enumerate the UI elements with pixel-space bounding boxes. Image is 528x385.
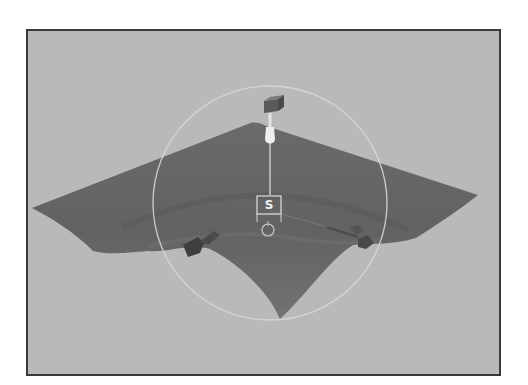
cube-handle[interactable]: [264, 95, 284, 113]
3d-viewport[interactable]: S: [26, 29, 501, 376]
surface-mesh: [32, 123, 478, 319]
scene-canvas[interactable]: S: [28, 31, 499, 374]
s-label: S: [265, 198, 274, 212]
deformed-plane[interactable]: [32, 123, 478, 319]
